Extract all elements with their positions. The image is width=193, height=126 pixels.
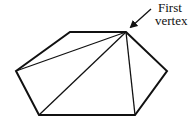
diagonal-to-left: [16, 32, 126, 71]
label-vertex: vertex: [155, 13, 188, 28]
diagonal-to-bottom-right: [126, 32, 135, 115]
triangulated-hexagon-diagram: First vertex: [0, 0, 193, 126]
first-vertex-arrow: [131, 9, 151, 27]
